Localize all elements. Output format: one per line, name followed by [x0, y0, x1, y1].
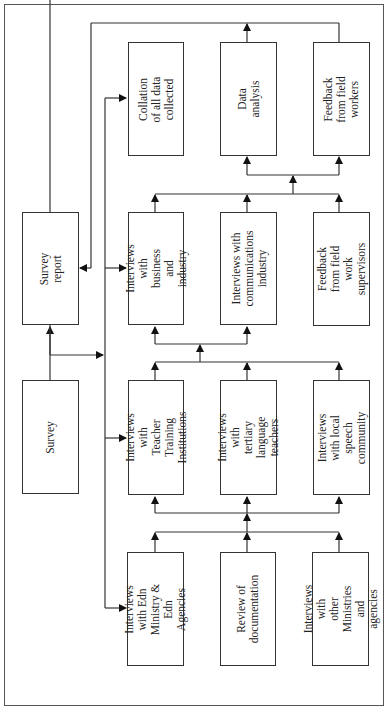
communications-industry-box: Interviews with communications industry	[220, 212, 277, 325]
business-industry-label: Interviews with business and industry	[124, 242, 189, 296]
survey-box: Survey	[22, 380, 79, 494]
data-analysis-box: Data analysis	[220, 42, 277, 156]
review-documentation-label: Review of documentation	[235, 575, 261, 643]
local-speech-box: Interviews with local speech community	[313, 380, 370, 495]
feedback-workers-box: Feedback from field workers	[313, 42, 370, 156]
tertiary-teachers-box: Interviews with tertiary language teache…	[220, 380, 277, 495]
survey-report-box: Survey report	[22, 212, 79, 325]
survey-report-label: Survey report	[38, 241, 64, 296]
feedback-workers-label: Feedback from field workers	[322, 72, 361, 127]
edn-ministry-box: Interviews with Edn Ministry & Edn Agenc…	[127, 552, 184, 666]
local-speech-label: Interviews with local speech community	[316, 410, 368, 465]
other-ministries-box: Interviews with other Ministries and age…	[312, 552, 369, 666]
teacher-training-box: Interviews with Teacher Training Institu…	[128, 380, 184, 495]
teacher-training-label: Interviews with Teacher Training Institu…	[124, 411, 189, 465]
collation-box: Collation of all data collected	[128, 42, 184, 156]
edn-ministry-label: Interviews with Edn Ministry & Edn Agenc…	[123, 582, 188, 637]
feedback-supervisors-box: Feedback from field work supervisors	[313, 212, 370, 326]
collation-label: Collation of all data collected	[137, 72, 176, 126]
feedback-supervisors-label: Feedback from field work supervisors	[316, 242, 368, 297]
other-ministries-label: Interviews with other Ministries and age…	[302, 582, 380, 637]
review-documentation-box: Review of documentation	[220, 552, 276, 666]
communications-industry-label: Interviews with communications industry	[229, 230, 268, 306]
tertiary-teachers-label: Interviews with tertiary language teache…	[216, 410, 281, 465]
survey-label: Survey	[44, 421, 57, 454]
business-industry-box: Interviews with business and industry	[128, 212, 184, 325]
data-analysis-label: Data analysis	[236, 72, 262, 127]
